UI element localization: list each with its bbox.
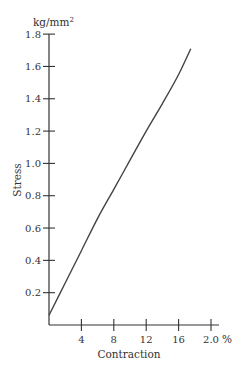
x-axis-label: Contraction [97, 348, 160, 360]
x-tick-label: 12 [140, 334, 153, 345]
y-tick-label: 1.4 [25, 93, 41, 104]
y-axis-unit: kg/mm2 [33, 16, 74, 28]
x-tick-label: 4 [78, 334, 84, 345]
y-tick-label: 1.6 [25, 61, 41, 72]
y-tick-label: 1.2 [25, 126, 41, 137]
y-tick-label: 0.6 [25, 223, 41, 234]
stress-curve [49, 49, 191, 316]
y-tick-label: 1.8 [25, 29, 41, 40]
y-axis-ticks: 0.20.40.60.81.01.21.41.61.8 [25, 29, 55, 299]
y-axis-label: Stress [11, 163, 23, 196]
y-tick-label: 1.0 [25, 158, 41, 169]
y-tick-label: 0.4 [25, 255, 41, 266]
y-tick-label: 0.8 [25, 190, 41, 201]
stress-contraction-chart: 0.20.40.60.81.01.21.41.61.8 4812162.0 kg… [0, 0, 243, 371]
y-tick-label: 0.2 [25, 287, 41, 298]
x-tick-label: 2.0 [203, 334, 219, 345]
x-axis-unit: % [222, 333, 232, 345]
series-group [49, 49, 191, 316]
x-tick-label: 16 [172, 334, 185, 345]
x-tick-label: 8 [111, 334, 117, 345]
x-axis-ticks: 4812162.0 [78, 319, 219, 345]
